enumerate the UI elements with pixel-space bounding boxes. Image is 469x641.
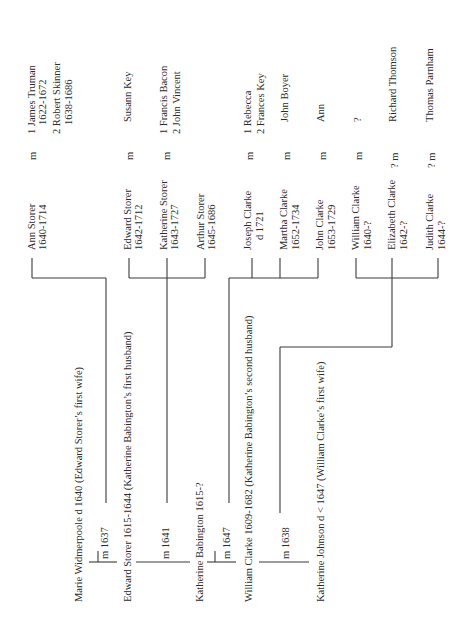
child-dates: 1640-1714 (37, 205, 49, 251)
child-name: Judith Clarke (424, 194, 436, 250)
marriage-marker: ? m (426, 153, 438, 168)
spouse: 1 Rebecca (242, 91, 254, 134)
child-dates: 1642-? (398, 221, 410, 250)
child-name: John Clarke (314, 200, 326, 250)
person-marie-widmerpoole: Marie Widmerpoole d 1640 (Edward Storer’… (73, 367, 85, 602)
spouse: Thomas Parnham (424, 48, 436, 122)
person-william-clarke-sr: William Clarke 1609-1682 (Katherine Babi… (243, 315, 255, 602)
spouse: 1 Francis Bacon (158, 66, 170, 134)
child-dates: 1640-? (362, 221, 374, 250)
child-dates: 1643-1727 (169, 205, 181, 251)
child-name: Elizabeth Clarke (386, 180, 398, 250)
child-name: William Clarke (350, 185, 362, 250)
child-dates: 1645-1686 (206, 205, 218, 251)
spouse-dates: 1638-1686 (63, 80, 75, 126)
person-katherine-johnson: Katherine Johnson d < 1647 (William Clar… (315, 361, 327, 602)
child-dates: 1652-1734 (290, 205, 302, 251)
spouse: Ann (315, 104, 327, 122)
marriage-label: m 1637 (99, 527, 111, 559)
spouse: 2 Robert Skinner (51, 62, 63, 134)
spouse: John Boyer (279, 74, 291, 122)
marriage-label: m 1638 (280, 527, 292, 559)
spouse: Susann Key (122, 72, 134, 122)
child-dates: 1653-1729 (326, 205, 338, 251)
marriage-label: m 1647 (221, 527, 233, 559)
child-name: Joseph Clarke (242, 191, 254, 250)
marriage-marker: m (353, 152, 365, 160)
marriage-marker: m (27, 152, 39, 160)
marriage-marker: m (281, 152, 293, 160)
spouse: 2 Frances Key (255, 73, 267, 134)
marriage-marker: m (244, 152, 256, 160)
spouse-dates: 1622-1672 (37, 80, 49, 126)
child-dates: 1644-? (436, 221, 448, 250)
person-katherine-babington: Katherine Babington 1615-? (194, 482, 206, 602)
child-name: Martha Clarke (278, 189, 290, 250)
person-edward-storer-sr: Edward Storer 1615-1644 (Katherine Babin… (122, 331, 134, 602)
spouse: ? (352, 117, 364, 122)
child-dates: d 1721 (254, 211, 266, 240)
marriage-label: m 1641 (160, 527, 172, 559)
marriage-marker: ? m (389, 153, 401, 168)
child-dates: 1642-1712 (133, 205, 145, 251)
spouse: 2 John Vincent (171, 71, 183, 134)
marriage-marker: m (161, 152, 173, 160)
marriage-marker: m (124, 152, 136, 160)
marriage-marker: m (317, 152, 329, 160)
spouse: Richard Thomson (387, 47, 399, 122)
